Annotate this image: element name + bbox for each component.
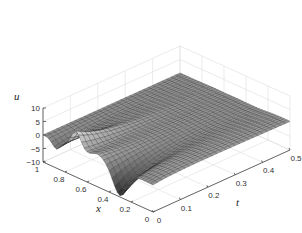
- t-tick-label: 0.3: [236, 179, 248, 188]
- t-tick-label: 0.1: [181, 204, 193, 213]
- x-tick-label: 1: [35, 165, 40, 174]
- surface-plot: −10−5051000.20.40.60.8100.10.20.30.40.5 …: [0, 0, 302, 233]
- t-tick-label: 0: [157, 216, 162, 225]
- u-tick-label: 0: [36, 131, 41, 140]
- t-tick-label: 0.4: [263, 166, 275, 175]
- u-tick-label: 10: [31, 104, 40, 113]
- u-tick-label: 5: [36, 118, 41, 127]
- t-tick-label: 0.2: [208, 191, 220, 200]
- x-axis-label: x: [95, 202, 101, 214]
- t-axis-label: t: [236, 196, 240, 208]
- u-axis-label: u: [14, 90, 20, 102]
- x-tick-label: 0.2: [119, 205, 131, 214]
- x-tick-label: 0.6: [75, 185, 87, 194]
- x-tick-label: 0: [145, 215, 150, 224]
- u-tick-label: −5: [31, 145, 41, 154]
- t-tick-label: 0.5: [290, 154, 302, 163]
- surface-plot-figure: −10−5051000.20.40.60.8100.10.20.30.40.5 …: [0, 0, 302, 233]
- x-tick-label: 0.8: [53, 175, 65, 184]
